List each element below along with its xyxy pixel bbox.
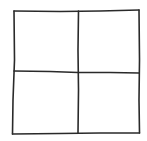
grid-diagram <box>0 0 147 141</box>
cell-bottom-right <box>80 74 138 132</box>
cell-top-left <box>15 12 77 71</box>
cell-top-right <box>80 12 138 71</box>
horizontal-divider <box>14 71 139 73</box>
outer-border-bottom <box>13 133 140 134</box>
cell-bottom-left <box>15 74 77 132</box>
outer-border-right <box>139 10 140 133</box>
